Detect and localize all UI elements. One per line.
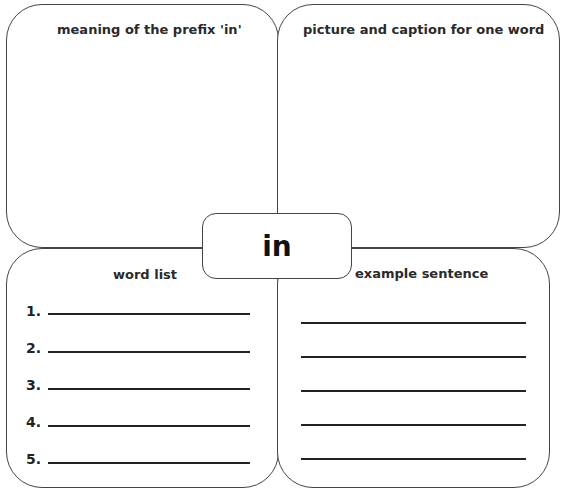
word-line-4[interactable]: [48, 425, 250, 427]
center-word-box: in: [202, 213, 352, 279]
item-number-2: 2.: [26, 340, 41, 356]
word-line-1[interactable]: [48, 313, 250, 315]
item-number-1: 1.: [26, 303, 41, 319]
example-sentence-title: example sentence: [355, 266, 488, 281]
word-list-title: word list: [113, 267, 177, 282]
word-list-box: [6, 248, 279, 488]
item-number-3: 3.: [26, 377, 41, 393]
picture-title: picture and caption for one word: [303, 22, 544, 37]
word-line-2[interactable]: [48, 351, 250, 353]
sentence-line-5[interactable]: [301, 458, 526, 460]
meaning-title: meaning of the prefix 'in': [57, 22, 242, 37]
word-line-3[interactable]: [48, 388, 250, 390]
word-line-5[interactable]: [48, 462, 250, 464]
picture-box: [277, 4, 560, 248]
center-word: in: [262, 230, 292, 263]
example-sentence-box: [277, 248, 550, 488]
item-number-4: 4.: [26, 414, 41, 430]
sentence-line-4[interactable]: [301, 424, 526, 426]
sentence-line-3[interactable]: [301, 390, 526, 392]
item-number-5: 5.: [26, 451, 41, 467]
sentence-line-1[interactable]: [301, 322, 526, 324]
meaning-box: [6, 4, 279, 248]
sentence-line-2[interactable]: [301, 356, 526, 358]
